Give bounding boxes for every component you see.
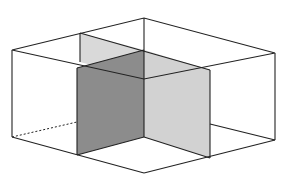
box-bottom-hidden (12, 122, 77, 137)
box-diagram (0, 0, 289, 190)
plane-bottom-3 (210, 124, 275, 140)
plane-right (144, 50, 210, 158)
